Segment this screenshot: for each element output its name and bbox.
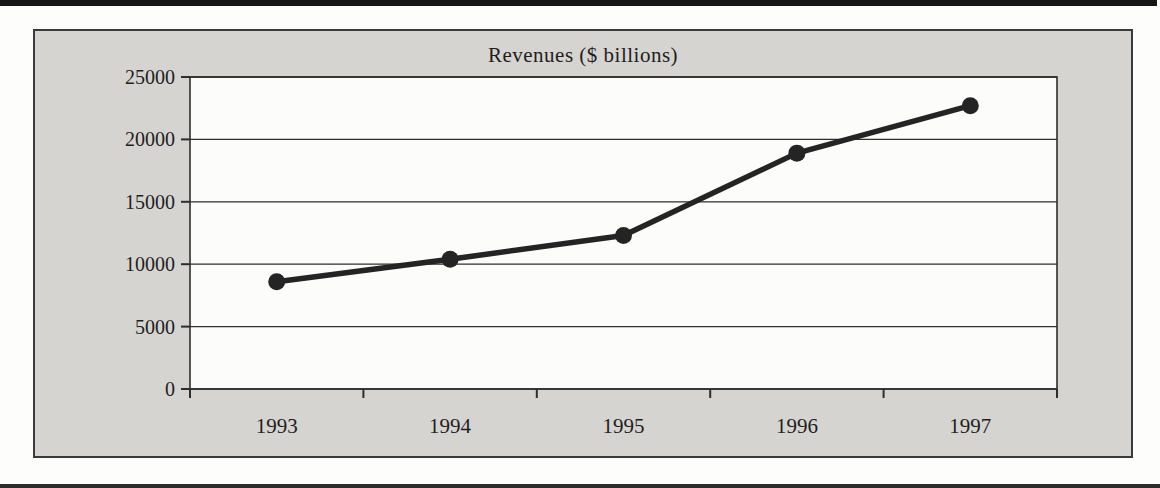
data-point [615,227,632,244]
y-axis-label: 20000 [125,128,175,150]
top-rule [0,0,1157,6]
x-axis-label: 1997 [949,414,991,438]
x-axis-label: 1993 [256,414,298,438]
data-point [962,97,979,114]
data-point [442,251,459,268]
chart-svg: 0500010000150002000025000199319941995199… [35,31,1131,456]
x-axis-label: 1994 [429,414,472,438]
y-axis-label: 15000 [125,191,175,213]
x-axis-label: 1995 [603,414,645,438]
y-axis-label: 10000 [125,253,175,275]
data-point [788,145,805,162]
y-axis-label: 25000 [125,66,175,88]
y-axis-label: 5000 [135,316,175,338]
x-axis-label: 1996 [776,414,818,438]
bottom-rule [0,484,1160,488]
page: Revenues ($ billions) 050001000015000200… [0,0,1160,488]
y-axis-label: 0 [165,378,175,400]
chart-frame: Revenues ($ billions) 050001000015000200… [33,29,1133,458]
data-point [268,273,285,290]
